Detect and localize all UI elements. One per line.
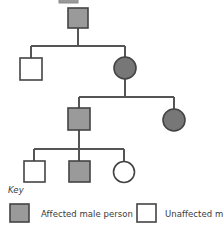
key-unaffected-male-swatch [137, 204, 156, 222]
individual-III-1-affected-male[interactable] [68, 108, 90, 130]
individual-I-1-affected-male[interactable] [68, 8, 88, 28]
pedigree-diagram [0, 0, 223, 227]
top-partial-symbol [59, 0, 78, 3]
key-affected-male-label: Affected male person [41, 209, 133, 219]
individual-IV-3-unaffected-female[interactable] [114, 162, 135, 183]
pedigree-figure: Key Affected male person Unaffected male [0, 0, 223, 227]
key-affected-male-swatch [10, 204, 29, 222]
individual-II-1-unaffected-male[interactable] [20, 58, 42, 80]
generation-1-group [68, 8, 88, 28]
key-unaffected-male-label: Unaffected male [165, 209, 223, 219]
generation-2-group [20, 57, 136, 80]
individual-II-2-affected-female[interactable] [114, 57, 136, 79]
connector-lines [31, 28, 174, 162]
individual-IV-1-unaffected-male[interactable] [24, 161, 45, 182]
individual-III-2-affected-female[interactable] [163, 109, 185, 131]
generation-3-group [68, 108, 185, 131]
individual-IV-2-affected-male[interactable] [69, 161, 90, 182]
generation-4-group [24, 161, 135, 183]
key-title: Key [8, 185, 24, 195]
